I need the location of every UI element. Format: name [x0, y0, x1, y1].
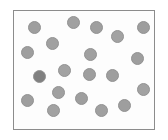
data-dot [21, 94, 34, 107]
figure-canvas [0, 0, 168, 140]
data-dot [137, 83, 150, 96]
data-dot [52, 86, 65, 99]
data-dot [111, 30, 124, 43]
data-dot [21, 46, 34, 59]
data-dot [118, 99, 131, 112]
data-dot [84, 48, 97, 61]
data-dot [33, 70, 46, 83]
data-dot [90, 21, 103, 34]
data-dot [46, 37, 59, 50]
data-dot [28, 21, 41, 34]
data-dot [106, 69, 119, 82]
data-dot [137, 21, 150, 34]
data-dot [131, 52, 144, 65]
data-dot [83, 68, 96, 81]
data-dot [95, 104, 108, 117]
data-dot [58, 64, 71, 77]
data-dot [47, 104, 60, 117]
data-dot [75, 92, 88, 105]
data-dot [67, 16, 80, 29]
